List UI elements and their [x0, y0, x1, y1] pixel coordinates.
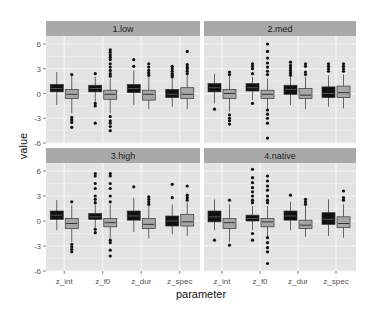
outlier-point	[109, 125, 112, 128]
x-tick-label: z_spec	[167, 277, 192, 286]
outlier-point	[94, 231, 97, 234]
outlier-point	[266, 113, 269, 116]
outlier-point	[251, 168, 254, 171]
outlier-point	[147, 66, 150, 69]
outlier-point	[94, 174, 97, 177]
facet-panels: 1.low2.med3.high4.native	[46, 21, 356, 271]
outlier-point	[109, 62, 112, 65]
outlier-point	[70, 126, 73, 129]
outlier-point	[266, 66, 269, 69]
outlier-point	[109, 187, 112, 190]
outlier-point	[213, 239, 216, 242]
outlier-point	[266, 201, 269, 204]
outlier-point	[109, 66, 112, 69]
outlier-point	[109, 129, 112, 132]
outlier-point	[251, 190, 254, 193]
outlier-point	[266, 189, 269, 192]
outlier-point	[266, 246, 269, 249]
y-tick-label: 6	[37, 167, 42, 176]
outlier-point	[266, 73, 269, 76]
outlier-point	[289, 194, 292, 197]
outlier-point	[147, 203, 150, 206]
outlier-point	[266, 117, 269, 120]
outlier-point	[266, 174, 269, 177]
outlier-point	[251, 181, 254, 184]
outlier-point	[228, 122, 231, 125]
facet-strip-label: 2.med	[267, 24, 292, 34]
outlier-point	[228, 73, 231, 76]
outlier-point	[70, 250, 73, 253]
outlier-point	[228, 113, 231, 116]
x-tick-label: z_f0	[252, 277, 268, 286]
outlier-point	[94, 228, 97, 231]
outlier-point	[289, 74, 292, 77]
outlier-point	[228, 119, 231, 122]
outlier-point	[94, 182, 97, 185]
outlier-point	[186, 50, 189, 53]
facet-panel-4-native: 4.native	[204, 148, 356, 271]
outlier-point	[132, 185, 135, 188]
outlier-point	[213, 108, 216, 111]
outlier-point	[70, 73, 73, 76]
outlier-point	[251, 72, 254, 75]
outlier-point	[94, 72, 97, 75]
y-tick-label: -3	[34, 242, 42, 251]
y-tick-label: -6	[34, 139, 42, 148]
outlier-point	[251, 102, 254, 105]
outlier-point	[266, 50, 269, 53]
outlier-point	[94, 198, 97, 201]
y-axis-title: value	[17, 133, 29, 159]
x-tick-label: z_spec	[323, 277, 348, 286]
faceted-boxplot-chart: 1.low2.med3.high4.native 630-3-6630-3-6 …	[0, 0, 375, 315]
outlier-point	[266, 42, 269, 45]
outlier-point	[342, 70, 345, 73]
outlier-point	[266, 184, 269, 187]
outlier-point	[266, 122, 269, 125]
outlier-point	[186, 199, 189, 202]
x-tick-label: z_dur	[131, 277, 151, 286]
outlier-point	[266, 56, 269, 59]
outlier-point	[109, 69, 112, 72]
y-tick-label: 3	[37, 192, 42, 201]
y-tick-label: 3	[37, 65, 42, 74]
outlier-point	[342, 189, 345, 192]
facet-panel-3-high: 3.high	[46, 148, 200, 271]
facet-panel-1-low: 1.low	[46, 21, 200, 143]
facet-strip-label: 1.low	[112, 24, 134, 34]
outlier-point	[251, 194, 254, 197]
outlier-point	[109, 174, 112, 177]
y-tick-label: 0	[37, 217, 42, 226]
x-axis-title: parameter	[176, 288, 226, 300]
outlier-point	[70, 121, 73, 124]
outlier-point	[186, 184, 189, 187]
outlier-point	[70, 200, 73, 203]
outlier-point	[304, 203, 307, 206]
outlier-point	[251, 176, 254, 179]
outlier-point	[109, 200, 112, 203]
outlier-point	[186, 72, 189, 75]
outlier-point	[109, 249, 112, 252]
outlier-point	[132, 58, 135, 61]
outlier-point	[251, 239, 254, 242]
x-tick-label: z_int	[214, 277, 232, 286]
outlier-point	[266, 194, 269, 197]
outlier-point	[251, 232, 254, 235]
outlier-point	[304, 73, 307, 76]
outlier-point	[132, 65, 135, 68]
outlier-point	[171, 75, 174, 78]
y-tick-label: 0	[37, 90, 42, 99]
outlier-point	[94, 104, 97, 107]
x-tick-label: z_int	[56, 277, 74, 286]
outlier-point	[147, 62, 150, 65]
outlier-point	[266, 179, 269, 182]
outlier-point	[266, 70, 269, 73]
y-axis: 630-3-6630-3-6	[34, 40, 46, 276]
outlier-point	[266, 236, 269, 239]
outlier-point	[94, 122, 97, 125]
outlier-point	[228, 244, 231, 247]
outlier-point	[266, 108, 269, 111]
outlier-point	[266, 262, 269, 265]
outlier-point	[251, 201, 254, 204]
outlier-point	[342, 199, 345, 202]
outlier-point	[109, 122, 112, 125]
